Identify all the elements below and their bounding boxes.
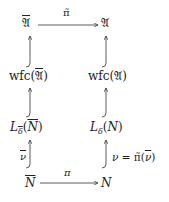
node-L-right: Lδ(N) [90,121,123,136]
fraktur-A-bar: 𝔄 [35,69,43,83]
paren-close: ) [122,69,127,83]
fraktur-A-bar: 𝔄 [22,16,30,30]
hook-arrow-left-3 [26,140,30,168]
nu-equals: ν = [112,151,134,163]
node-bottom-left: N [25,177,36,189]
node-bottom-right: N [101,177,112,189]
label-pi: π [64,168,71,178]
arrows-layer [0,0,169,202]
N-bar: N [25,176,36,190]
label-nu-equals: ν = π̃(ν) [112,152,155,163]
paren-close: ) [38,120,43,134]
hook-arrow-right-3 [102,140,106,168]
paren-close: ) [43,69,48,83]
N-bar: N [27,120,38,134]
paren-close: ) [118,120,123,134]
wfc-prefix: wfc( [9,69,35,83]
node-wfc-left: wfc(𝔄) [9,70,48,82]
node-wfc-right: wfc(𝔄) [88,70,127,82]
hook-arrow-left-2 [26,88,30,117]
N: N [107,120,118,134]
L-symbol: L [90,120,98,134]
L-symbol: L [10,120,18,134]
hook-arrow-left-1 [26,36,30,67]
hook-arrow-right-2 [102,88,106,117]
node-top-right: 𝔄 [101,17,109,29]
label-nu-bar: ν [20,152,26,162]
node-L-left: Lδ(N) [10,121,43,136]
label-pi-tilde: π̃ [63,8,70,18]
node-top-left: 𝔄 [22,17,30,29]
fraktur-A: 𝔄 [114,69,122,83]
wfc-prefix: wfc( [88,69,114,83]
pi-tilde: π̃ [134,151,141,163]
hook-arrow-right-1 [102,36,106,67]
paren-close: ) [151,151,155,163]
